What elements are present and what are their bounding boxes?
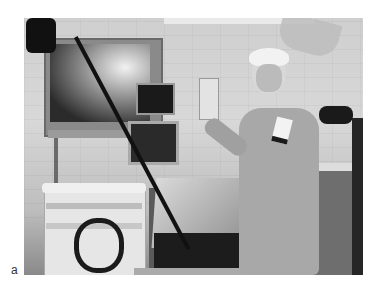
cart-shelf [42,183,146,193]
iv-stand [199,78,219,120]
cable-coil [74,218,124,273]
right-edge-equipment [352,118,363,275]
photograph [24,18,363,275]
endoscope-handle [26,18,56,53]
panel-label: a [11,263,18,277]
simulator-box [154,233,249,268]
surgeon-face [256,64,282,92]
small-monitor-upper [136,83,175,115]
small-monitor-lower [128,121,179,165]
chair-back [319,106,353,124]
figure: a [0,0,381,286]
cart-drawer [46,203,142,209]
